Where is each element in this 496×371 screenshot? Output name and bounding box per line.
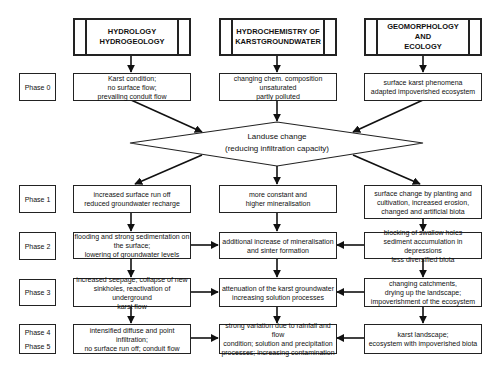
phase1-hydrochemistry: more constant and higher mineralisation <box>219 185 337 213</box>
header-hydrochemistry: HYDROCHEMISTRY OF KARSTGROUNDWATER <box>219 18 337 56</box>
phase45-hydrochemistry: strong variation due to rainfall and flo… <box>219 324 337 354</box>
phase3-geomorphology: changing catchments, drying up the lands… <box>364 278 482 307</box>
phase3-hydrochemistry: attenuation of the karst groundwater inc… <box>219 278 337 307</box>
phase-label-0: Phase 0 <box>19 73 56 101</box>
phase-label-2: Phase 2 <box>19 232 56 260</box>
arrow-hydrology-phase0-to-decision <box>131 100 202 132</box>
decision-line2: (reducing infiltration capacity) <box>180 143 374 155</box>
phase2-hydrochemistry: additional increase of mineralisation an… <box>219 232 337 259</box>
header-hydrology: HYDROLOGY HYDROGEOLOGY <box>73 18 191 56</box>
phase1-hydrology: increased surface run off reduced ground… <box>73 185 191 213</box>
decision-line1: Landuse change <box>180 131 374 143</box>
phase0-hydrochemistry: changing chem. composition unsaturated p… <box>219 73 337 101</box>
phase2-geomorphology: blocking of swallow holes sediment accum… <box>364 232 482 259</box>
phase-label-4-5: Phase 4 Phase 5 <box>19 324 56 354</box>
phase-label-3: Phase 3 <box>19 279 56 306</box>
phase-label-5: Phase 5 <box>25 342 51 351</box>
arrow-decision-to-hydrology-phase1 <box>135 155 202 184</box>
phase-label-4: Phase 4 <box>25 328 51 337</box>
phase3-hydrology: increased seepage, collapse of new sinkh… <box>73 278 191 307</box>
header-hydrochemistry-label: HYDROCHEMISTRY OF KARSTGROUNDWATER <box>235 27 321 47</box>
header-geomorphology: GEOMORPHOLOGY AND ECOLOGY <box>364 18 482 56</box>
arrow-geomorph-phase0-to-decision <box>353 100 423 132</box>
header-geomorphology-label: GEOMORPHOLOGY AND ECOLOGY <box>387 22 459 52</box>
phase1-geomorphology: surface change by planting and cultivati… <box>364 185 482 219</box>
phase0-hydrology: Karst condition; no surface flow; prevai… <box>73 73 191 101</box>
phase0-geomorphology: surface karst phenomena adapted impoveri… <box>364 73 482 101</box>
arrow-decision-to-geomorph-phase1 <box>353 155 420 184</box>
phase-label-1: Phase 1 <box>19 185 56 213</box>
phase2-hydrology: flooding and strong sedimentation on the… <box>73 232 191 259</box>
header-hydrology-label: HYDROLOGY HYDROGEOLOGY <box>99 27 164 47</box>
decision-label: Landuse change (reducing infiltration ca… <box>180 131 374 155</box>
phase45-hydrology: intensified diffuse and point infiltrati… <box>73 324 191 354</box>
phase45-geomorphology: karst landscape; ecosystem with impoveri… <box>364 324 482 354</box>
